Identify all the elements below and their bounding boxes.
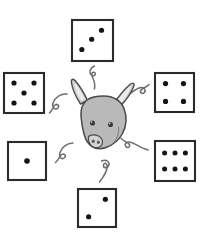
left-eye-highlight: [91, 121, 93, 123]
left-nostril-icon: [92, 140, 95, 143]
pip: [21, 90, 26, 95]
die-bottom-face: [78, 189, 116, 227]
die-left-lower-pips: [24, 158, 30, 164]
pip: [79, 47, 84, 52]
illustration-svg: [0, 0, 208, 235]
pip: [31, 100, 36, 105]
die-right-upper[interactable]: [155, 73, 194, 112]
right-eye-highlight: [109, 123, 111, 125]
pip: [173, 167, 178, 172]
die-left-lower[interactable]: [8, 142, 46, 180]
squiggle-bottom-icon: [100, 160, 110, 182]
pip: [89, 37, 94, 42]
squiggle-left-upper-icon: [50, 94, 68, 113]
illustration-canvas: Six dice arranged around an animal head …: [0, 0, 208, 235]
squiggle-right-lower-icon: [121, 138, 148, 150]
pip: [11, 100, 16, 105]
pip: [103, 197, 108, 202]
pip: [173, 151, 178, 156]
pip: [163, 81, 168, 86]
pip: [162, 167, 167, 172]
die-right-lower-face: [155, 141, 195, 181]
die-top[interactable]: [72, 20, 113, 61]
squiggle-top-icon: [90, 66, 95, 89]
donkey-head[interactable]: [71, 79, 134, 148]
head-shape: [81, 96, 126, 149]
pip: [11, 80, 16, 85]
pip: [181, 81, 186, 86]
right-eye-icon: [108, 122, 113, 127]
pip: [181, 99, 186, 104]
pip: [24, 158, 30, 164]
pip: [86, 214, 91, 219]
muzzle-shape: [88, 135, 102, 148]
pip: [99, 28, 104, 33]
right-nostril-icon: [97, 141, 100, 144]
pip: [183, 167, 188, 172]
pip: [163, 99, 168, 104]
die-right-lower[interactable]: [155, 141, 195, 181]
pip: [162, 151, 167, 156]
die-left-upper[interactable]: [4, 73, 44, 113]
die-right-upper-face: [155, 73, 194, 112]
die-bottom[interactable]: [78, 189, 116, 227]
pip: [31, 80, 36, 85]
pip: [183, 151, 188, 156]
left-eye-icon: [90, 120, 95, 125]
squiggle-left-lower-icon: [56, 143, 74, 163]
